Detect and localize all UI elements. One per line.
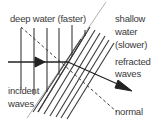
deep-water-label: deep water (faster)	[10, 14, 86, 25]
refracted-wavefronts	[33, 27, 114, 119]
shallow-water-label-3: (slower)	[115, 40, 147, 51]
refracted-waves-label-2: waves	[115, 69, 141, 80]
shallow-water-label-1: shallow	[115, 14, 145, 25]
incident-waves-label-1: incident	[8, 86, 39, 97]
incident-waves-label-2: waves	[8, 99, 34, 110]
refracted-waves-label-1: refracted	[115, 57, 151, 68]
shallow-water-label-2: water	[115, 27, 137, 38]
normal-label: normal	[115, 107, 143, 118]
